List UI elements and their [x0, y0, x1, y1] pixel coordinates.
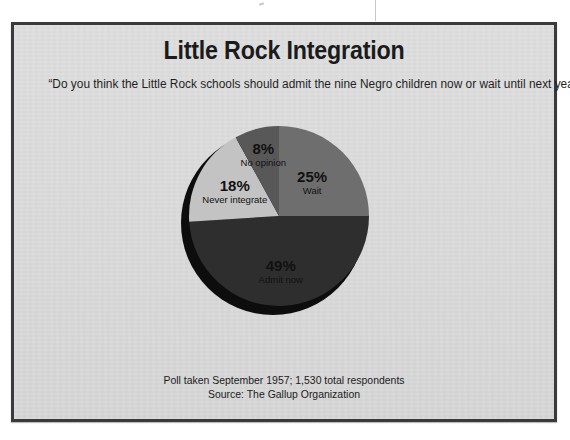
footnote-line-2: Source: The Gallup Organization: [28, 387, 541, 401]
pie-slice-value: 49%: [266, 257, 296, 274]
pie-chart-svg: 25%Wait49%Admit now18%Never integrate8%N…: [179, 109, 389, 339]
poster-page: Little Rock Integration “Do you think th…: [0, 0, 570, 440]
pie-chart: 25%Wait49%Admit now18%Never integrate8%N…: [14, 109, 554, 339]
scan-artifact-mark: [259, 2, 264, 5]
pie-slice-value: 8%: [252, 140, 274, 157]
pie-slice-name: Never integrate: [202, 194, 267, 205]
footnote-line-1: Poll taken September 1957; 1,530 total r…: [28, 373, 541, 387]
pie-slice-value: 25%: [297, 168, 327, 185]
page-title: Little Rock Integration: [33, 36, 535, 65]
chart-canvas: Little Rock Integration “Do you think th…: [14, 25, 554, 419]
chart-footnote: Poll taken September 1957; 1,530 total r…: [28, 373, 541, 401]
pie-slice-name: Admit now: [259, 274, 303, 285]
scan-artifact-line: [375, 0, 376, 21]
pie-slice-name: Wait: [303, 185, 322, 196]
chart-frame: Little Rock Integration “Do you think th…: [11, 22, 557, 422]
chart-subtitle: “Do you think the Little Rock schools sh…: [48, 77, 519, 91]
pie-slice-value: 18%: [220, 177, 250, 194]
pie-slice-name: No opinion: [241, 157, 286, 168]
